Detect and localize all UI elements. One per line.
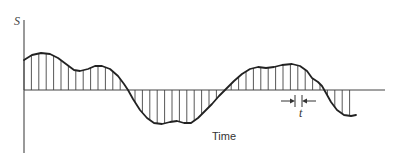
x-axis-label: Time <box>212 130 236 142</box>
y-axis-label: S <box>14 14 20 28</box>
arrow-right-icon <box>290 99 295 104</box>
arrow-left-icon <box>302 99 307 104</box>
interval-label: t <box>299 106 303 120</box>
signal-curve <box>24 53 356 124</box>
sampled-signal-diagram: S Time t <box>0 0 397 166</box>
sampling-interval-annotation: t <box>281 95 316 120</box>
